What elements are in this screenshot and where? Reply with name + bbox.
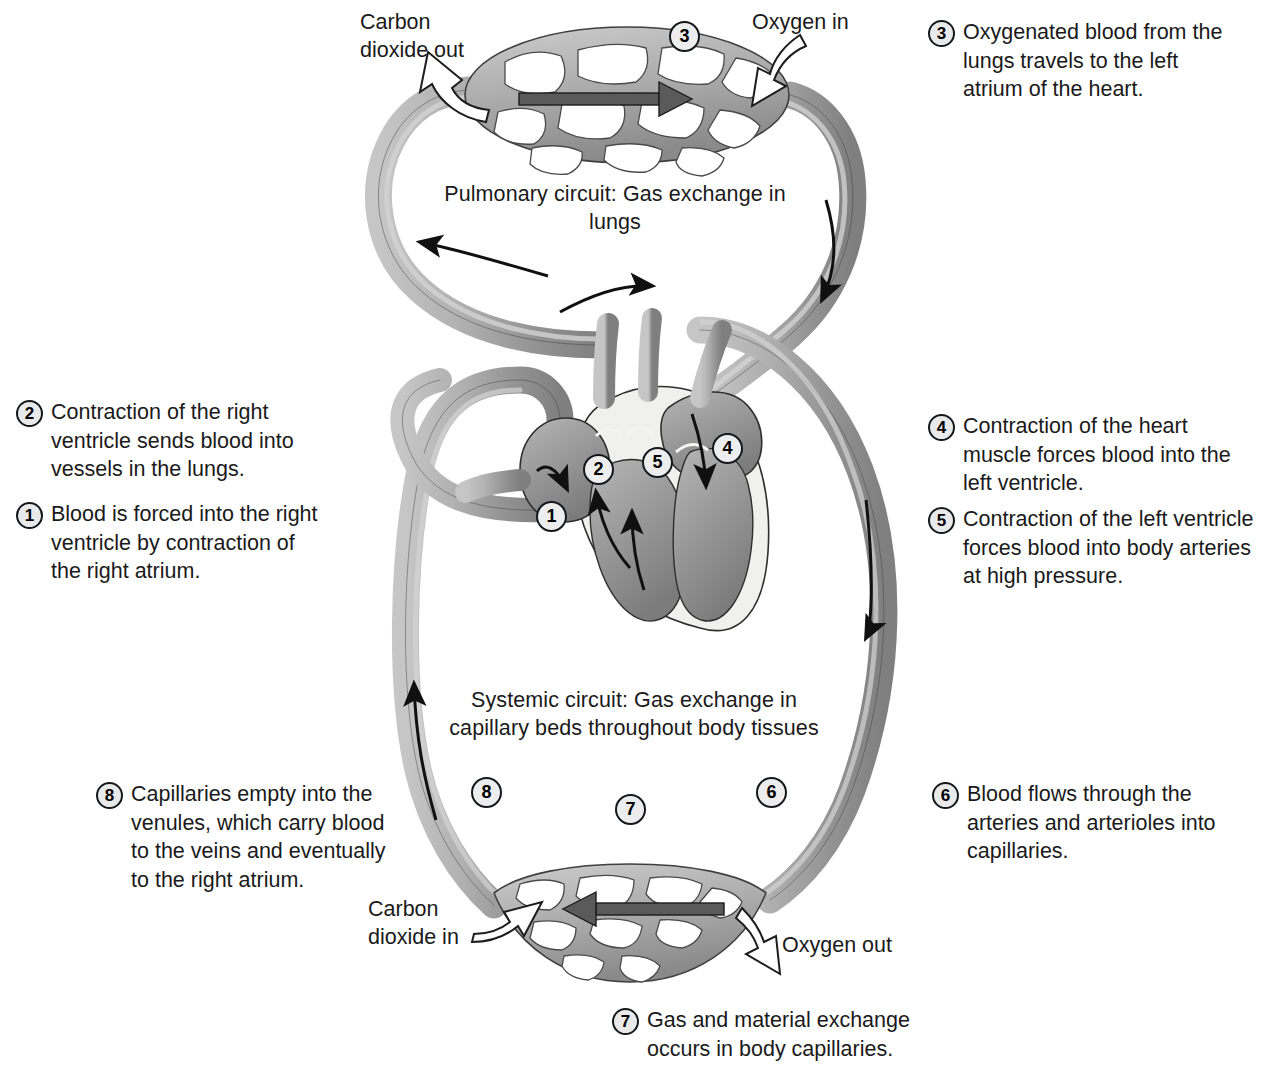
step-note-2[interactable]: 2 Contraction of the right ventricle sen… [16,398,346,484]
step-badge-8: 8 [96,782,123,809]
heart-cross-section [466,318,769,631]
marker-6[interactable]: 6 [756,777,787,808]
step-badge-4: 4 [928,414,955,441]
step-text-5: Contraction of the left ventricle forces… [963,505,1253,591]
step-badge-6: 6 [932,782,959,809]
step-note-4[interactable]: 4 Contraction of the heart muscle forces… [928,412,1264,498]
step-note-8[interactable]: 8 Capillaries empty into the venules, wh… [96,780,406,894]
step-note-6[interactable]: 6 Blood flows through the arteries and a… [932,780,1242,866]
co2-out-label: Carbon dioxide out [360,8,464,64]
step-text-6: Blood flows through the arteries and art… [967,780,1216,866]
oxygen-in-label: Oxygen in [752,8,849,36]
step-badge-1: 1 [16,502,43,529]
marker-3[interactable]: 3 [669,21,700,52]
step-text-1: Blood is forced into the right ventricle… [51,500,318,586]
marker-1[interactable]: 1 [536,501,567,532]
marker-4[interactable]: 4 [712,433,743,464]
marker-2[interactable]: 2 [583,454,614,485]
oxygen-out-label: Oxygen out [782,931,892,959]
step-text-4: Contraction of the heart muscle forces b… [963,412,1231,498]
body-capillary-bed [494,864,766,982]
oxygen-out-arrow [736,908,780,974]
step-text-8: Capillaries empty into the venules, whic… [131,780,386,894]
pulmonary-circuit-caption: Pulmonary circuit: Gas exchange in lungs [430,180,800,236]
marker-8[interactable]: 8 [471,777,502,808]
step-badge-5: 5 [928,507,955,534]
step-badge-7: 7 [612,1008,639,1035]
step-note-1[interactable]: 1 Blood is forced into the right ventric… [16,500,356,586]
step-note-3[interactable]: 3 Oxygenated blood from the lungs travel… [928,18,1258,104]
lung-capillary-bed [465,27,789,176]
step-text-3: Oxygenated blood from the lungs travels … [963,18,1222,104]
marker-5[interactable]: 5 [642,447,673,478]
diagram-canvas: Carbon dioxide out Oxygen in Carbon diox… [0,0,1270,1080]
co2-in-label: Carbon dioxide in [368,895,459,951]
step-badge-2: 2 [16,400,43,427]
step-text-2: Contraction of the right ventricle sends… [51,398,294,484]
systemic-circuit-caption: Systemic circuit: Gas exchange in capill… [408,686,860,742]
step-note-5[interactable]: 5 Contraction of the left ventricle forc… [928,505,1270,591]
step-text-7: Gas and material exchange occurs in body… [647,1006,910,1063]
marker-7[interactable]: 7 [615,794,646,825]
step-badge-3: 3 [928,20,955,47]
step-note-7[interactable]: 7 Gas and material exchange occurs in bo… [612,1006,942,1063]
